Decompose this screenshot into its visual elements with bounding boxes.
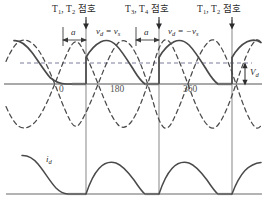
firing-arrow-3 xyxy=(229,17,235,30)
firing-label-2-korean: 점호 xyxy=(151,4,169,14)
vd-measure-arrow xyxy=(242,63,247,86)
waveform-canvas xyxy=(0,0,273,203)
firing-label-1-korean: 점호 xyxy=(78,4,96,14)
equation-vd-equals-minus-vs: vd = −vs xyxy=(168,27,198,36)
firing-label-1-sub-b: 2 xyxy=(72,8,75,15)
firing-label-3-korean: 점호 xyxy=(223,4,241,14)
vd-segment-trailing xyxy=(232,40,261,57)
firing-arrow-1 xyxy=(83,17,89,30)
vd-segment-1 xyxy=(86,40,145,84)
firing-label-2: T3, T4 점호 xyxy=(125,5,169,15)
id-segment-2 xyxy=(159,162,218,194)
id-waveform-label: id xyxy=(46,155,52,164)
eq2-rhs-sub: s xyxy=(196,30,199,37)
alpha-label-1: a xyxy=(71,28,76,37)
firing-label-2-sub-a: 3 xyxy=(131,8,134,15)
alpha-label-2: a xyxy=(144,28,149,37)
id-segment-1 xyxy=(86,162,145,194)
axis-tick-180: 180 xyxy=(110,85,124,95)
vd-label-v: V xyxy=(250,67,256,77)
firing-label-3: T1, T2 점호 xyxy=(197,5,241,15)
axis-tick-0: 0 xyxy=(59,85,64,95)
firing-label-3-sub-b: 2 xyxy=(217,8,220,15)
firing-label-1-sub-a: 1 xyxy=(58,8,61,15)
vd-segment-2 xyxy=(159,40,218,84)
eq2-lhs-sub: d xyxy=(172,30,175,37)
rectifier-waveform-figure: T1, T2 점호 T3, T4 점호 T1, T2 점호 a a vd = v… xyxy=(0,0,273,203)
equation-vd-equals-vs: vd = vs xyxy=(96,27,120,36)
vd-measure-label: Vd xyxy=(250,68,259,77)
eq1-op: = xyxy=(103,26,114,36)
firing-label-2-sub-b: 4 xyxy=(145,8,148,15)
vd-label-sub: d xyxy=(256,71,259,78)
id-label-sub: d xyxy=(49,158,52,165)
firing-arrow-2 xyxy=(156,17,162,30)
firing-label-1: T1, T2 점호 xyxy=(52,5,96,15)
eq2-op: = − xyxy=(175,26,192,36)
eq1-lhs-sub: d xyxy=(100,30,103,37)
eq1-rhs-sub: s xyxy=(118,30,121,37)
id-segment-leading xyxy=(22,155,68,194)
firing-label-3-sub-a: 1 xyxy=(203,8,206,15)
id-segment-trailing xyxy=(232,163,261,195)
axis-tick-360: 360 xyxy=(183,85,197,95)
